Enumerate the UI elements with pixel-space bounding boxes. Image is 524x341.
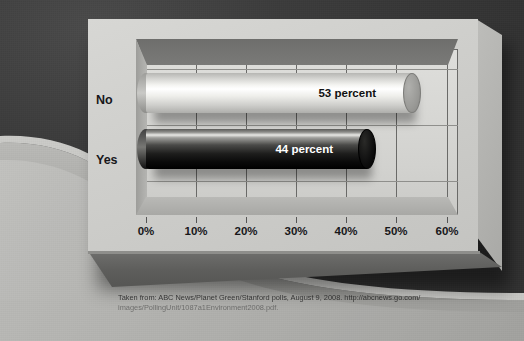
xtick-0 <box>146 217 147 223</box>
xtick-10 <box>196 217 197 223</box>
chart-front-bottom-edge <box>88 251 480 254</box>
xtick-label-50: 50% <box>384 225 407 237</box>
bar-no-value-label: 53 percent <box>318 87 376 99</box>
bar-yes-body <box>146 129 367 169</box>
band-separator-bottom <box>146 181 458 182</box>
source-caption: Taken from: ABC News/Planet Green/Stanfo… <box>118 293 448 313</box>
plot-floor-face <box>136 197 458 215</box>
source-caption-line2: images/PollingUnit/1087a1Environment2008… <box>118 303 448 313</box>
xtick-50 <box>396 217 397 223</box>
bar-yes[interactable]: 44 percent <box>146 129 367 169</box>
band-separator-top <box>146 69 458 70</box>
xtick-label-10: 10% <box>184 225 207 237</box>
bar-yes-right-cap <box>358 129 376 169</box>
xtick-label-0: 0% <box>138 225 155 237</box>
gridline-60 <box>447 49 448 215</box>
plot-left-wall-face <box>136 39 147 215</box>
xtick-label-30: 30% <box>284 225 307 237</box>
plot-ceiling-face <box>136 39 458 65</box>
category-label-yes: Yes <box>96 153 134 167</box>
chart-3d-block: No Yes <box>88 19 508 277</box>
xtick-40 <box>346 217 347 223</box>
band-separator-middle <box>146 125 458 126</box>
xtick-30 <box>296 217 297 223</box>
xtick-label-40: 40% <box>334 225 357 237</box>
chart-front-face: No Yes <box>88 19 478 251</box>
xtick-20 <box>246 217 247 223</box>
source-caption-line1: Taken from: ABC News/Planet Green/Stanfo… <box>118 293 448 303</box>
category-label-no: No <box>96 93 134 107</box>
xtick-60 <box>447 217 448 223</box>
plot-area: 53 percent 44 percent <box>136 39 458 215</box>
bar-no[interactable]: 53 percent <box>146 73 412 113</box>
bar-no-right-cap <box>403 73 421 113</box>
chart-right-side-face <box>476 19 502 271</box>
slide-canvas: No Yes <box>0 0 524 341</box>
xtick-label-60: 60% <box>435 225 458 237</box>
xtick-label-20: 20% <box>234 225 257 237</box>
bar-yes-value-label: 44 percent <box>275 143 333 155</box>
